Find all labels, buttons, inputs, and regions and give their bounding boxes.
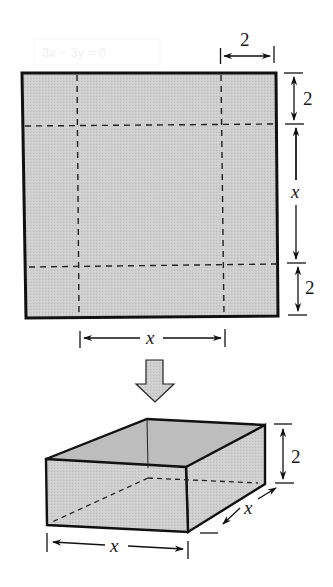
ghost-text-artifact: 3x − 3y = 0 (34, 39, 160, 65)
box-depth-label: x (243, 497, 253, 518)
right-bottom-label: 2 (305, 277, 315, 298)
right-middle-label: x (290, 181, 300, 202)
right-top-label: 2 (303, 88, 313, 109)
flat-sheet (22, 73, 278, 318)
box-width-label: x (109, 535, 119, 556)
sheet-rectangle (22, 73, 278, 318)
down-arrow-icon (136, 360, 174, 402)
top-dimension-label: 2 (240, 29, 250, 50)
svg-text:3x − 3y = 0: 3x − 3y = 0 (42, 45, 106, 60)
bottom-dimension-label: x (145, 327, 155, 348)
box-front-face (46, 459, 188, 532)
box-height-label: 2 (291, 446, 301, 467)
